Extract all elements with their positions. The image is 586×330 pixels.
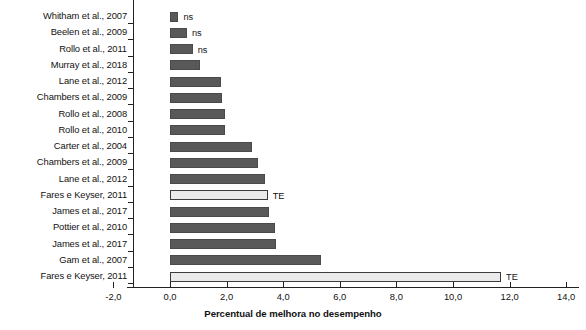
x-axis-tick-mark — [566, 282, 567, 288]
bar — [170, 223, 275, 233]
y-axis-tick-mark — [128, 39, 134, 40]
bar — [170, 60, 200, 70]
bar — [170, 93, 222, 103]
y-axis-tick-mark — [128, 283, 134, 284]
bar — [170, 142, 252, 152]
bar — [170, 272, 501, 282]
bar-annotation-label: TE — [273, 191, 285, 201]
x-axis-tick-label: 6,0 — [320, 291, 360, 302]
y-axis-line — [133, 0, 134, 287]
bar — [170, 255, 321, 265]
y-axis-tick-mark — [128, 251, 134, 252]
bar — [170, 174, 265, 184]
x-axis-tick-label: 8,0 — [376, 291, 416, 302]
bar-annotation-label: TE — [506, 272, 518, 282]
x-axis-tick-label: 2,0 — [207, 291, 247, 302]
bar — [170, 125, 225, 135]
y-axis-tick-mark — [128, 137, 134, 138]
x-axis-line — [127, 287, 579, 288]
bar — [170, 28, 187, 38]
x-axis-tick-mark — [170, 282, 171, 288]
y-axis-tick-mark — [128, 104, 134, 105]
bar — [170, 239, 276, 249]
bar — [170, 44, 193, 54]
bar-annotation-label: ns — [183, 12, 193, 22]
y-axis-tick-mark — [128, 72, 134, 73]
bar — [170, 77, 221, 87]
x-axis-tick-mark — [227, 282, 228, 288]
y-axis-tick-mark — [128, 23, 134, 24]
y-axis-tick-mark — [128, 169, 134, 170]
bar — [170, 109, 225, 119]
y-axis-tick-mark — [128, 56, 134, 57]
x-axis-tick-mark — [283, 282, 284, 288]
x-axis-tick-label: 10,0 — [433, 291, 473, 302]
y-axis-tick-mark — [128, 153, 134, 154]
x-axis-tick-mark — [113, 282, 114, 288]
x-axis-tick-label: 12,0 — [490, 291, 530, 302]
x-axis-title: Percentual de melhora no desempenho — [0, 308, 586, 319]
bar — [170, 207, 269, 217]
bar-annotation-label: ns — [192, 28, 202, 38]
y-axis-tick-mark — [128, 267, 134, 268]
plot-area: nsnsnsTETE — [0, 0, 586, 287]
y-axis-tick-mark — [128, 218, 134, 219]
y-axis-tick-mark — [128, 121, 134, 122]
y-axis-tick-mark — [128, 234, 134, 235]
x-axis-tick-mark — [510, 282, 511, 288]
y-axis-tick-mark — [128, 186, 134, 187]
y-axis-tick-mark — [128, 88, 134, 89]
bar-chart: Whitham et al., 2007Beelen et al., 2009R… — [0, 0, 586, 330]
x-axis-tick-label: 0,0 — [150, 291, 190, 302]
x-axis-tick-label: 14,0 — [546, 291, 586, 302]
x-axis-tick-mark — [340, 282, 341, 288]
x-axis-tick-label: -2,0 — [93, 291, 133, 302]
bar — [170, 12, 178, 22]
x-axis-tick-label: 4,0 — [263, 291, 303, 302]
bar — [170, 158, 258, 168]
x-axis-tick-mark — [453, 282, 454, 288]
x-axis-tick-mark — [396, 282, 397, 288]
bar-annotation-label: ns — [198, 45, 208, 55]
y-axis-tick-mark — [128, 202, 134, 203]
bar — [170, 190, 268, 200]
